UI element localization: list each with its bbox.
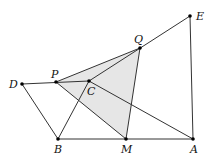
label-C: C bbox=[87, 85, 96, 98]
label-A: A bbox=[189, 143, 198, 156]
label-E: E bbox=[195, 10, 204, 23]
segment-DB bbox=[22, 84, 58, 139]
label-M: M bbox=[120, 143, 133, 156]
segment-AE bbox=[190, 16, 193, 139]
label-P: P bbox=[50, 68, 59, 81]
shaded-triangle bbox=[56, 48, 140, 139]
label-Q: Q bbox=[134, 33, 143, 46]
point-M bbox=[124, 137, 128, 141]
point-A bbox=[191, 137, 195, 141]
point-Q bbox=[138, 46, 142, 50]
point-B bbox=[56, 137, 60, 141]
diagram-canvas: EQPCDBMA bbox=[0, 0, 205, 156]
label-B: B bbox=[53, 143, 62, 156]
point-C bbox=[87, 79, 91, 83]
point-D bbox=[20, 82, 24, 86]
point-E bbox=[188, 14, 192, 18]
label-D: D bbox=[8, 78, 18, 91]
geometry-diagram: EQPCDBMA bbox=[0, 0, 205, 156]
